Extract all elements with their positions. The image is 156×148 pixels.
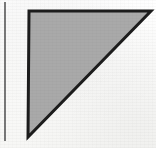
right-triangle-shape <box>28 11 151 137</box>
figure-vector-layer <box>0 0 156 148</box>
figure-canvas <box>0 0 156 148</box>
